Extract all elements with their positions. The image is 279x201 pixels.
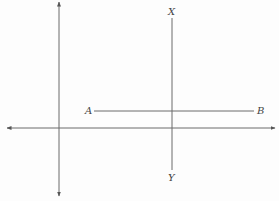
diagram-canvas: A B X Y: [0, 0, 279, 201]
label-a: A: [84, 105, 92, 116]
label-b: B: [256, 105, 264, 116]
label-y: Y: [168, 172, 176, 183]
label-x: X: [167, 6, 176, 17]
diagram-svg: A B X Y: [0, 0, 279, 201]
